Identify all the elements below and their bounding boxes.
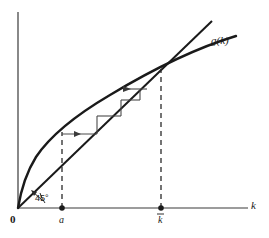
curve-label-gk: g(k) — [211, 35, 229, 46]
tick-dot-kbar — [158, 205, 164, 211]
x-axis-label: k — [251, 200, 256, 211]
staircase-arrow-upper — [123, 86, 131, 92]
angle-label: 45° — [35, 194, 49, 203]
gk-curve — [18, 36, 236, 208]
staircase-arrow-lower — [74, 131, 81, 137]
tick-dot-a — [59, 205, 65, 211]
growth-diagram-figure: g(k) k a k 0 45° — [0, 0, 269, 238]
forty-five-degree-line — [18, 21, 212, 208]
tick-label-kbar: k — [158, 215, 162, 225]
tick-label-a: a — [59, 215, 64, 225]
origin-label: 0 — [10, 214, 16, 225]
